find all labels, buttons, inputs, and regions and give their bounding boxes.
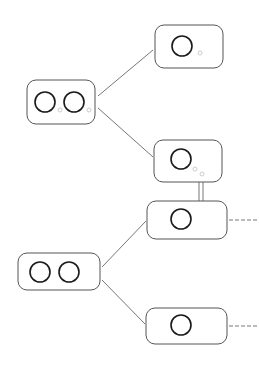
connectors bbox=[98, 50, 259, 326]
edge-a-c bbox=[98, 108, 153, 157]
node-e-pair bbox=[18, 253, 100, 290]
node-a-pair bbox=[27, 80, 95, 124]
node-d-single bbox=[147, 201, 227, 239]
edge-e-d bbox=[102, 221, 146, 267]
node-c-single bbox=[154, 140, 222, 182]
tree-diagram bbox=[0, 0, 259, 375]
edge-a-b bbox=[98, 50, 153, 96]
node-f-single bbox=[146, 308, 227, 344]
node-b-single bbox=[155, 25, 223, 68]
edge-e-f bbox=[102, 280, 145, 324]
